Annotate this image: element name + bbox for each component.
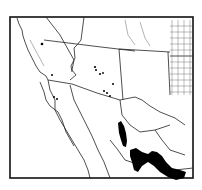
range-dot-arizona [95,69,97,71]
range-dot-arizona-south [106,92,108,94]
range-dots [41,43,114,100]
range-dot-arizona-south [103,90,105,92]
range-dot-arizona-south [112,83,114,85]
river [125,20,135,45]
county-grid [170,20,193,95]
sonora-coast [70,85,110,178]
nevada-utah-border [81,17,84,40]
range-dot-arizona [94,66,96,68]
range-dot-baja [53,96,55,98]
colorado-newmexico-border [119,49,170,52]
map-canvas [0,0,202,190]
range-dot-arizona [102,72,104,74]
river [140,22,150,46]
range-area-sonora [118,121,127,147]
california-coastline [17,18,48,80]
durango-border [155,130,185,155]
arizona-newmexico-border [119,49,123,100]
range-dot-border [109,95,111,97]
baja-east-coast [48,80,90,178]
range-dot-california-south [51,74,53,76]
coahuila-border [150,106,185,125]
distribution-map [0,0,202,190]
range-areas [118,121,186,180]
chihuahua-border [120,100,170,132]
newmexico-texas-border [168,52,170,95]
boundary-lines [17,17,193,178]
range-dot-arizona [99,73,101,75]
range-dot-baja [56,98,58,100]
range-dot-california [41,43,44,46]
us-mexico-border [48,80,150,106]
map-frame-border [10,17,193,178]
